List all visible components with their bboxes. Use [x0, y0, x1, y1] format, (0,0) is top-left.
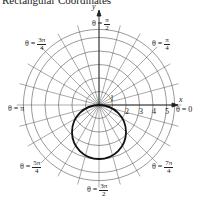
radial-tick-3: 3 [139, 107, 143, 116]
radial-tick-1: 1 [110, 94, 114, 103]
y-axis-label: y [92, 3, 96, 11]
radial-tick-4: 4 [152, 107, 156, 116]
angle-label-pi-2: θ = π2 [92, 17, 110, 32]
angle-label-3pi-4: θ = 3π4 [25, 37, 46, 52]
radial-tick-2: 2 [125, 107, 129, 116]
angle-label-3pi-2: θ = 3π2 [87, 183, 108, 198]
x-axis-label: x [179, 96, 183, 104]
angle-label-5pi-4: θ = 5π4 [20, 160, 41, 175]
radial-tick-5: 5 [165, 107, 169, 116]
angle-label-pi: θ = π [8, 105, 24, 113]
angle-label-0: θ = 0 [176, 106, 192, 114]
angle-label-pi-4: θ = π4 [152, 37, 170, 52]
angle-label-7pi-4: θ = 7π4 [152, 160, 173, 175]
